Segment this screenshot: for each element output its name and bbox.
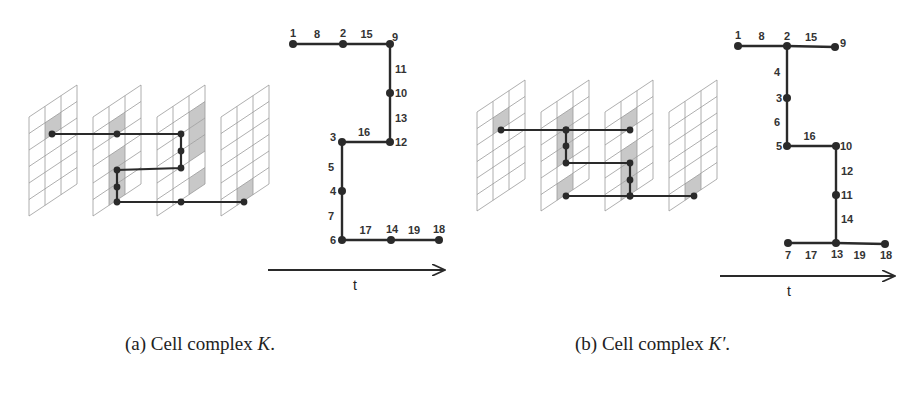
node-label: 6 [330,234,336,246]
edge-label: 12 [841,165,853,177]
edge-label: 17 [805,249,817,261]
panel-a-path [49,131,248,206]
node-label: 11 [841,189,853,201]
node-label: 13 [831,248,843,260]
node-label: 7 [785,249,791,261]
node-label: 14 [386,223,399,235]
edge-label: 16 [804,130,816,142]
node-label: 5 [776,140,782,152]
edge-label: 8 [314,28,320,40]
edge-label: 19 [854,249,866,261]
graph-node [338,187,346,195]
panel-b-slices [477,80,717,211]
node-label: 10 [840,140,852,152]
node-label: 2 [784,30,790,42]
panel-b-path [498,127,698,200]
graph-node [386,89,394,97]
edge-label: 19 [408,224,420,236]
edge-label: 8 [759,30,765,42]
graph-edge [787,46,835,47]
graph-node [338,236,346,244]
edge-label: 16 [358,126,370,138]
node-label: 18 [880,249,892,261]
node-label: 2 [340,27,346,39]
node-label: 9 [392,31,398,43]
graph-node [734,42,742,50]
edge-label: 13 [395,112,407,124]
caption-b: (b) Cell complex K′. [575,333,730,355]
panel-a-graph: 81511131657171912910123461418 [289,27,445,246]
time-axis-label-b: t [787,283,791,299]
node-label: 12 [395,136,407,148]
graph-node [831,43,839,51]
graph-node [783,94,791,102]
graph-node [832,239,840,247]
edge-label: 6 [774,116,780,128]
caption-a-symbol: K [257,333,270,354]
graph-node [784,239,792,247]
graph-node [435,236,443,244]
node-label: 10 [395,87,407,99]
graph-node [386,138,394,146]
node-label: 9 [840,37,846,49]
edge-label: 17 [360,224,372,236]
node-label: 4 [330,185,337,197]
caption-a-prefix: (a) Cell complex [125,333,257,354]
edge-label: 4 [774,66,781,78]
node-label: 3 [330,131,336,143]
graph-node [339,40,347,48]
graph-node [832,142,840,150]
caption-b-symbol: K′ [709,333,726,354]
graph-node [783,42,791,50]
graph-node [338,138,346,146]
graph-node [832,191,840,199]
edge-label: 15 [805,31,817,43]
graph-node [387,236,395,244]
caption-b-suffix: . [725,333,730,354]
graph-node [289,40,297,48]
caption-b-prefix: (b) Cell complex [575,333,709,354]
caption-a: (a) Cell complex K. [125,333,275,355]
graph-node [783,142,791,150]
caption-a-suffix: . [270,333,275,354]
edge-label: 15 [361,28,373,40]
node-label: 1 [290,27,296,39]
graph-edge [836,243,885,244]
edge-label: 7 [328,210,334,222]
edge-label: 14 [841,213,854,225]
edge-label: 11 [395,63,407,75]
panel-a-slices [29,85,269,216]
node-label: 1 [735,29,741,41]
time-axis-label-a: t [353,277,357,293]
panel-b-graph: 81546161214171912935101113718 [734,29,892,261]
node-label: 3 [776,92,782,104]
graph-node [881,240,889,248]
node-label: 18 [433,223,445,235]
edge-label: 5 [328,161,334,173]
